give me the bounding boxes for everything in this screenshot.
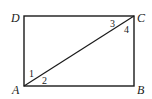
angle-label-3: 3 xyxy=(110,18,115,29)
angle-label-2: 2 xyxy=(42,75,47,86)
angle-label-4: 4 xyxy=(124,24,129,35)
vertex-label-a: A xyxy=(11,83,20,97)
diagonal-ac xyxy=(24,16,134,86)
rectangle-diagram: D C A B 1 2 3 4 xyxy=(0,0,152,99)
vertex-label-b: B xyxy=(137,83,145,97)
angle-label-1: 1 xyxy=(29,68,34,79)
vertex-label-d: D xyxy=(10,11,20,25)
vertex-label-c: C xyxy=(137,11,146,25)
